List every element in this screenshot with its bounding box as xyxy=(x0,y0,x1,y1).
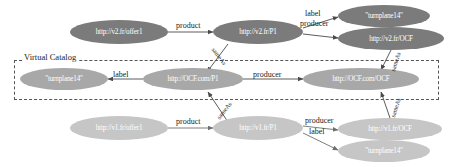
node-v2-turnplane14[interactable]: "turnplane14" xyxy=(338,5,430,27)
node-v2-ocf[interactable]: http://v2.fr/OCF xyxy=(338,27,444,50)
node-label: http://v1.fr/P1 xyxy=(239,124,277,132)
node-label: http://v2.fr/offer1 xyxy=(96,28,143,36)
edge-producer-top xyxy=(303,34,338,38)
edge-label-producer-middle: producer xyxy=(253,70,281,79)
node-v1-turnplane14[interactable]: "turnplane14" xyxy=(338,140,430,162)
edge-label-product-bottom: product xyxy=(176,117,200,126)
node-label: http://OCF.com/OCF xyxy=(332,75,389,83)
virtual-catalog-label: Virtual Catalog xyxy=(22,52,78,62)
diagram-canvas: Virtual Catalog xyxy=(0,0,451,167)
node-v1-ocf[interactable]: http://v1.fr/OCF xyxy=(338,118,442,140)
node-v2-p1[interactable]: http://v2.fr/P1 xyxy=(213,20,303,44)
node-v2-offer1[interactable]: http://v2.fr/offer1 xyxy=(70,20,168,44)
node-vc-turnplane14[interactable]: "turnplane14" xyxy=(20,68,108,90)
edge-label-label-bottom: label xyxy=(309,127,325,136)
node-vc-p1[interactable]: http://OCF.com/P1 xyxy=(143,68,243,90)
node-label: "turnplane14" xyxy=(365,147,403,155)
node-label: "turnplane14" xyxy=(45,75,83,83)
edge-label-producer-top: producer xyxy=(300,19,328,28)
edge-label-label-middle: label xyxy=(113,70,129,79)
node-label: http://v1.fr/offer1 xyxy=(96,124,143,132)
edge-label-label-top: label xyxy=(305,9,321,18)
edge-label-product-top: product xyxy=(176,21,200,30)
node-v1-offer1[interactable]: http://v1.fr/offer1 xyxy=(70,116,168,140)
node-label: http://v1.fr/OCF xyxy=(368,125,412,133)
node-label: "turnplane14" xyxy=(365,12,403,20)
node-label: http://v2.fr/P1 xyxy=(239,28,277,36)
edge-label-producer-bottom: producer xyxy=(305,116,333,125)
node-v1-p1[interactable]: http://v1.fr/P1 xyxy=(213,116,303,140)
node-label: http://v2.fr/OCF xyxy=(369,34,413,42)
node-vc-ocf[interactable]: http://OCF.com/OCF xyxy=(303,68,419,90)
node-label: http://OCF.com/P1 xyxy=(168,75,219,83)
